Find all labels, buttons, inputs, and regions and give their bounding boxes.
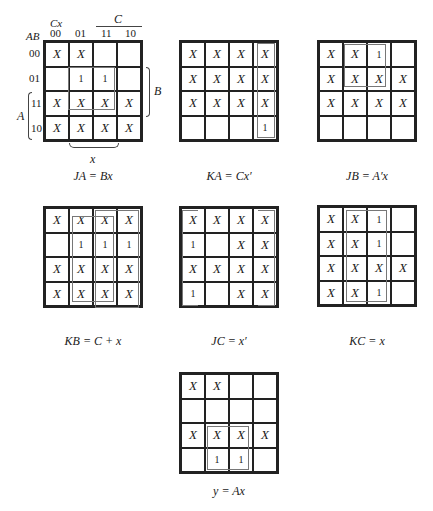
kmap-cell: [253, 399, 277, 424]
kmap-cell: X: [205, 257, 229, 282]
a-brace: [28, 92, 32, 140]
kmap-cell: X: [181, 91, 205, 116]
var-b-label: B: [154, 84, 161, 99]
kmap-cell: X: [45, 282, 69, 307]
col-header-00: 00: [50, 27, 61, 39]
col-header-10: 10: [125, 27, 136, 39]
kmap-cell: X: [205, 91, 229, 116]
kmap-cell: X: [69, 257, 93, 282]
kmap-caption: KB = C + x: [65, 334, 122, 349]
kmap-kc: XX1XX1XXXXXX1: [317, 205, 417, 307]
var-a-label: A: [17, 109, 24, 124]
kmap-cell: 1: [253, 116, 277, 141]
kmap-cell: X: [367, 91, 391, 116]
x-brace: [69, 143, 119, 148]
col-header-01: 01: [75, 27, 86, 39]
kmap-jb: XX1XXXXXXXX: [317, 40, 417, 142]
kmap-cell: [181, 399, 205, 424]
kmap-cell: X: [343, 232, 367, 257]
kmap-cell: X: [117, 116, 141, 141]
kmap-cell: X: [367, 67, 391, 92]
kmap-cell: X: [181, 208, 205, 233]
kmap-cell: X: [343, 42, 367, 67]
kmap-cell: 1: [93, 233, 117, 258]
kmap-cell: [391, 42, 415, 67]
var-c-label: C: [114, 12, 122, 27]
kmap-cell: X: [343, 281, 367, 306]
kmap-cell: X: [343, 67, 367, 92]
kmap-cell: X: [367, 256, 391, 281]
kmap-cell: X: [69, 116, 93, 141]
row-header-00: 00: [29, 47, 40, 59]
kmap-cell: [229, 116, 253, 141]
kmap-cell: X: [253, 91, 277, 116]
kmap-cell: 1: [367, 207, 391, 232]
kmap-cell: X: [319, 281, 343, 306]
kmap-cell: X: [205, 67, 229, 92]
kmap-cell: X: [319, 256, 343, 281]
kmap-cell: 1: [205, 448, 229, 473]
kmap-caption: y = Ax: [213, 484, 245, 499]
kmap-cell: 1: [367, 42, 391, 67]
row-header-01: 01: [29, 72, 40, 84]
kmap-cell: [205, 116, 229, 141]
kmap-cell: X: [205, 208, 229, 233]
kmap-cell: X: [45, 91, 69, 116]
kmap-cell: X: [181, 257, 205, 282]
kmap-cell: 1: [367, 232, 391, 257]
kmap-ja: XX11XXXXXXXX: [43, 40, 143, 142]
kmap-cell: [117, 42, 141, 67]
kmap-cell: 1: [367, 281, 391, 306]
row-header-10: 10: [31, 122, 42, 134]
kmap-cell: [205, 233, 229, 258]
kmap-cell: [205, 399, 229, 424]
kmap-caption: JA = Bx: [73, 169, 112, 184]
kmap-cell: X: [117, 282, 141, 307]
kmap-cell: X: [69, 42, 93, 67]
kmap-cell: [253, 448, 277, 473]
kmap-cell: X: [93, 91, 117, 116]
kmap-kb: XXXX111XXXXXXXX: [43, 206, 143, 308]
kmap-cell: X: [319, 91, 343, 116]
kmap-cell: [343, 116, 367, 141]
kmap-cell: X: [229, 208, 253, 233]
var-x-label: x: [90, 152, 95, 167]
kmap-cell: X: [319, 232, 343, 257]
kmap-cell: X: [45, 42, 69, 67]
kmap-cell: X: [319, 42, 343, 67]
kmap-cell: [253, 374, 277, 399]
kmap-cell: X: [181, 423, 205, 448]
kmap-cell: X: [117, 257, 141, 282]
row-vars-label: AB: [26, 30, 39, 42]
kmap-cell: X: [117, 91, 141, 116]
kmap-cell: [205, 282, 229, 307]
kmap-cell: X: [45, 116, 69, 141]
kmap-cell: 1: [69, 233, 93, 258]
kmap-cell: X: [253, 67, 277, 92]
kmap-y: XXXXXX11: [179, 372, 279, 474]
kmap-ka: XXXXXXXXXXXX1: [179, 40, 279, 142]
kmap-cell: X: [253, 42, 277, 67]
kmap-cell: X: [229, 423, 253, 448]
kmap-cell: X: [93, 282, 117, 307]
kmap-cell: X: [45, 257, 69, 282]
kmap-cell: X: [205, 374, 229, 399]
kmap-cell: [367, 116, 391, 141]
kmap-cell: X: [117, 208, 141, 233]
kmap-cell: X: [253, 233, 277, 258]
kmap-cell: [181, 448, 205, 473]
kmap-cell: X: [93, 257, 117, 282]
kmap-cell: X: [69, 208, 93, 233]
kmap-cell: X: [181, 42, 205, 67]
kmap-cell: 1: [93, 67, 117, 92]
kmap-cell: X: [205, 423, 229, 448]
kmap-cell: X: [253, 257, 277, 282]
kmap-cell: 1: [69, 67, 93, 92]
kmap-cell: X: [181, 374, 205, 399]
kmap-caption: KA = Cx′: [206, 169, 251, 184]
kmap-cell: X: [253, 423, 277, 448]
kmap-cell: 1: [181, 233, 205, 258]
kmap-cell: [117, 67, 141, 92]
kmap-cell: X: [391, 256, 415, 281]
kmap-cell: X: [93, 208, 117, 233]
